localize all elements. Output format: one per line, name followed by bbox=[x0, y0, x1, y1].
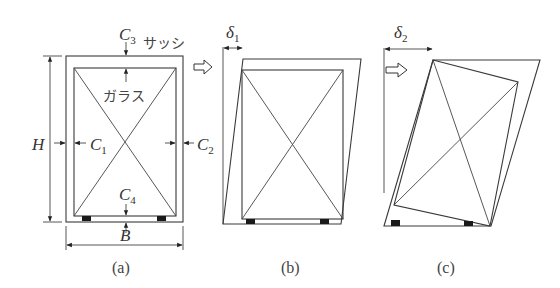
deformed-sash-frame bbox=[223, 59, 361, 224]
panel-c: δ2 (c) bbox=[384, 23, 540, 277]
panel-a: H B C3 サッシ ガラス C1 C2 C4 (a) bbox=[31, 25, 214, 277]
width-label: B bbox=[120, 226, 131, 245]
setting-block bbox=[246, 219, 255, 224]
glass-label: ガラス bbox=[103, 88, 145, 104]
setting-block bbox=[320, 219, 329, 224]
force-arrow-icon bbox=[386, 63, 407, 77]
caption-c: (c) bbox=[437, 259, 455, 277]
force-arrow-icon bbox=[194, 60, 212, 74]
c1-label: C1 bbox=[90, 135, 107, 156]
c3-label: C3 bbox=[119, 25, 136, 46]
glass-diagonal bbox=[394, 82, 518, 205]
setting-block bbox=[157, 216, 166, 221]
height-label: H bbox=[31, 135, 46, 154]
caption-b: (b) bbox=[281, 259, 300, 277]
c2-label: C2 bbox=[197, 135, 214, 156]
delta1-label: δ1 bbox=[226, 23, 239, 44]
c4-label: C4 bbox=[119, 185, 136, 206]
setting-block bbox=[464, 221, 473, 226]
setting-block bbox=[82, 216, 91, 221]
delta2-label: δ2 bbox=[394, 23, 407, 44]
glass-sash-deformation-diagram: H B C3 サッシ ガラス C1 C2 C4 (a) bbox=[0, 0, 560, 288]
caption-a: (a) bbox=[112, 259, 130, 277]
setting-block bbox=[391, 220, 400, 226]
panel-b: δ1 (b) bbox=[194, 23, 361, 277]
sash-label: サッシ bbox=[143, 35, 185, 51]
glass-diagonal bbox=[433, 60, 490, 226]
deformed-sash-frame bbox=[384, 60, 540, 226]
